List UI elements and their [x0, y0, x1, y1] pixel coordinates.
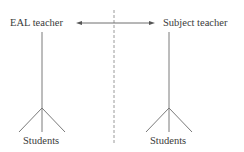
left-students-label: Students	[23, 136, 59, 147]
left-branch-right	[42, 108, 65, 132]
right-branch-right	[169, 108, 192, 132]
subject-teacher-label: Subject teacher	[163, 18, 227, 29]
right-students-label: Students	[150, 136, 186, 147]
arrowhead-right-icon	[149, 21, 155, 25]
diagram-canvas: EAL teacher Subject teacher Students Stu…	[0, 0, 244, 152]
eal-teacher-label: EAL teacher	[10, 18, 63, 29]
right-branch-left	[146, 108, 169, 132]
left-branch-left	[19, 108, 42, 132]
arrowhead-left-icon	[76, 21, 82, 25]
